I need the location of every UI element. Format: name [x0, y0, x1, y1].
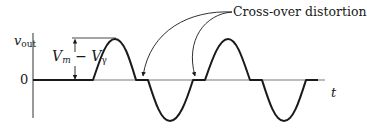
y-axis-label: vout	[14, 34, 36, 49]
crossover-arrow-2	[192, 12, 232, 76]
zero-label: 0	[20, 73, 28, 86]
crossover-arrow-1	[143, 12, 232, 76]
x-axis-label: t	[331, 86, 336, 99]
crossover-annotation: Cross-over distortion	[233, 6, 367, 19]
amplitude-label: Vm − Vγ	[52, 49, 107, 65]
